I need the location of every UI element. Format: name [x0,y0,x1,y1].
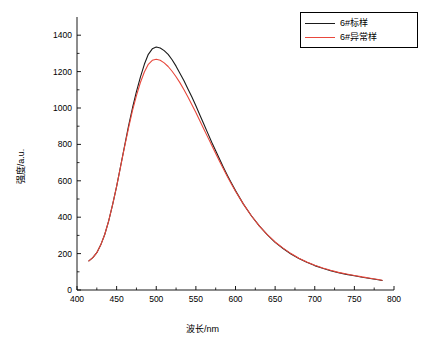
svg-text:1400: 1400 [53,30,72,40]
chart-plot-area: 4004505005506006507007508000200400600800… [0,0,430,343]
svg-text:400: 400 [58,212,72,222]
svg-text:400: 400 [70,294,84,304]
svg-text:700: 700 [308,294,322,304]
legend-swatch-1 [305,37,335,38]
svg-text:750: 750 [347,294,361,304]
svg-text:200: 200 [58,249,72,259]
svg-text:1200: 1200 [53,67,72,77]
chart-container: 4004505005506006507007508000200400600800… [0,0,430,343]
svg-text:800: 800 [387,294,401,304]
chart-legend: 6#标样 6#异常样 [300,12,418,48]
svg-text:600: 600 [58,176,72,186]
legend-item-1: 6#异常样 [305,30,413,44]
svg-text:1000: 1000 [53,103,72,113]
legend-item-0: 6#标样 [305,16,413,30]
svg-text:450: 450 [110,294,124,304]
svg-text:550: 550 [189,294,203,304]
series-line-1 [89,59,382,280]
svg-text:500: 500 [149,294,163,304]
x-axis-title: 波长/nm [186,322,219,335]
svg-text:800: 800 [58,139,72,149]
legend-label-1: 6#异常样 [340,30,377,44]
y-axis-title: 强度/a.u. [14,127,27,207]
series-line-0 [89,47,382,281]
svg-text:650: 650 [268,294,282,304]
svg-text:0: 0 [67,285,72,295]
svg-text:600: 600 [228,294,242,304]
legend-swatch-0 [305,23,335,24]
legend-label-0: 6#标样 [340,16,368,30]
